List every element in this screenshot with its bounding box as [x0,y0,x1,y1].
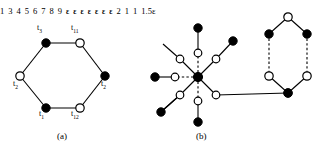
node-top-left [42,39,50,47]
node-left [16,72,24,80]
figure-svg [0,0,323,154]
panel-caption-b: (b) [196,131,207,141]
leaf-eps-top [194,24,202,32]
edge-a-upper-right [80,43,105,76]
spoke-node-8 [194,49,202,57]
node-label-bottom-left: t1 [39,110,44,120]
epsilon-hexagon-edges [269,17,307,93]
epsilon-hexagon-nodes [265,13,311,98]
spoke-node-4 [194,97,202,105]
panel-a-nodes [16,39,109,112]
edge-a-lower-left [20,76,46,108]
spoke-node-7 [176,55,184,63]
panel-a-edges [20,43,105,108]
hex-node-upper-right [303,30,311,38]
spoke-node-9 [212,55,220,63]
node-label-right: t2 [101,80,106,90]
edge-a-upper-left [20,43,46,76]
node-top-right [76,39,84,47]
spoke-node-6 [171,73,179,81]
hub-to-hexagon-edge [216,93,288,95]
hex-node-bottom [284,89,293,98]
node-label-top-left: t3 [37,24,42,34]
spoke-node-3 [212,91,220,99]
figure-container: t3 t11 t2 t12 t1 t2 1 3 4 5 6 7 8 9 ε ε … [0,0,323,154]
hex-node-upper-left [265,30,273,38]
panel-caption-a: (a) [57,131,67,141]
node-label-top-right: t11 [71,24,79,34]
spoke-node-5 [176,91,184,99]
node-label-bottom-right: t12 [71,110,79,120]
node-label-left: t2 [13,80,18,90]
hex-node-lower-left [265,72,273,80]
leaf-eps-left [151,73,159,81]
leaf-eps-lower-left [157,108,165,116]
hub-node [193,72,202,81]
hex-node-lower-right [303,72,311,80]
hex-node-top [284,13,292,21]
panel-b-inner-nodes [171,49,220,105]
leaf-eps-upper-right [229,37,237,45]
leaf-eps-bottom [194,118,202,126]
